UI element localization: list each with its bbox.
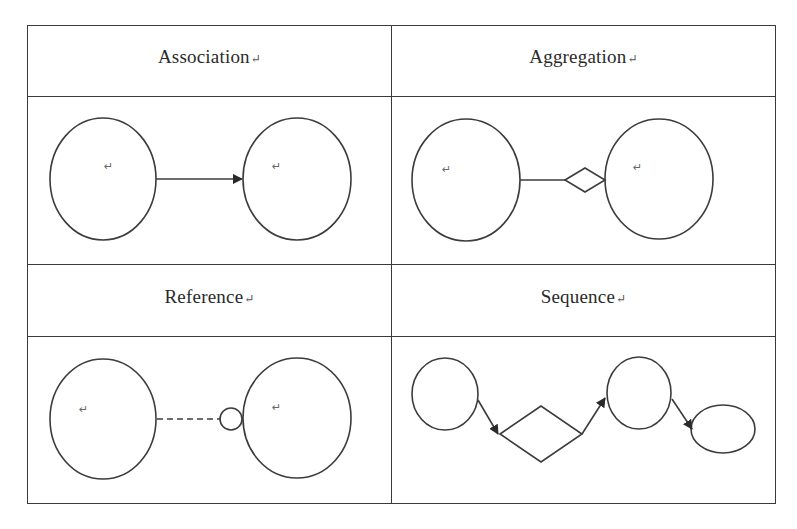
paragraph-mark-icon: ↵ <box>442 163 451 176</box>
paragraph-mark-icon: ↵ <box>627 52 637 66</box>
header-reference: Reference↵ <box>27 264 392 337</box>
class-circle-left <box>50 359 156 479</box>
reference-diagram-graphic: ↵ ↵ <box>28 337 393 505</box>
aggregation-diamond-icon <box>565 168 605 192</box>
paragraph-mark-icon: ↵ <box>272 160 281 173</box>
paragraph-mark-icon: ↵ <box>251 52 261 66</box>
paragraph-mark-icon: ↵ <box>272 401 281 414</box>
class-circle-right <box>605 119 713 239</box>
header-association-label: Association↵ <box>158 46 261 68</box>
class-circle-right <box>243 118 351 240</box>
sequence-diamond-icon <box>500 406 582 462</box>
paragraph-mark-icon: ↵ <box>616 292 626 306</box>
paragraph-mark-icon: ↵ <box>244 292 254 306</box>
relationship-types-table: Association↵ Aggregation↵ ↵ ↵ ↵ ↵ <box>27 25 776 504</box>
class-circle-left <box>412 119 520 241</box>
class-circle-right <box>243 358 351 478</box>
sequence-arrow-1 <box>478 400 498 434</box>
header-association: Association↵ <box>27 25 392 97</box>
reference-small-circle-icon <box>220 408 242 430</box>
aggregation-diagram-graphic: ↵ ↵ <box>392 97 777 266</box>
header-reference-label: Reference↵ <box>164 286 254 308</box>
sequence-diagram-graphic <box>392 337 777 505</box>
sequence-arrow-2 <box>582 398 605 434</box>
sequence-ellipse-3 <box>691 405 755 453</box>
diagram-reference: ↵ ↵ <box>27 336 392 504</box>
class-circle-left <box>50 118 156 240</box>
paragraph-mark-icon: ↵ <box>104 160 113 173</box>
sequence-arrow-3 <box>672 399 692 429</box>
association-diagram-graphic: ↵ ↵ <box>28 97 393 266</box>
diagram-sequence <box>391 336 776 504</box>
paragraph-mark-icon: ↵ <box>79 403 88 416</box>
header-sequence: Sequence↵ <box>391 264 776 337</box>
paragraph-mark-icon: ↵ <box>633 161 642 174</box>
header-aggregation-label: Aggregation↵ <box>529 46 637 68</box>
diagram-aggregation: ↵ ↵ <box>391 96 776 265</box>
diagram-association: ↵ ↵ <box>27 96 392 265</box>
header-sequence-label: Sequence↵ <box>541 286 627 308</box>
sequence-circle-2 <box>607 357 671 429</box>
sequence-circle-1 <box>412 358 478 430</box>
header-aggregation: Aggregation↵ <box>391 25 776 97</box>
